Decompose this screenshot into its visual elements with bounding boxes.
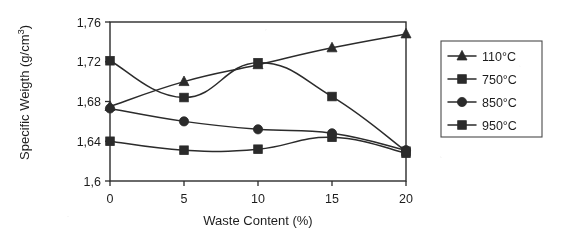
- x-axis-title-text: Waste Content (%): [203, 213, 312, 228]
- plot-frame: [110, 22, 406, 181]
- data-point-square-marker: [254, 145, 263, 154]
- data-point-circle-marker: [457, 97, 466, 106]
- x-tick-label: 20: [399, 192, 413, 206]
- chart-figure: Specific Weigth (g/cm3) 1,61,641,681,721…: [0, 0, 565, 246]
- line-chart: Specific Weigth (g/cm3) 1,61,641,681,721…: [0, 0, 565, 246]
- data-point-square-marker: [328, 92, 337, 101]
- series-950C: [106, 56, 411, 155]
- legend-item-label: 110°C: [482, 50, 516, 64]
- data-point-circle-marker: [327, 129, 336, 138]
- legend-item-label: 950°C: [482, 119, 517, 133]
- data-point-square-marker: [402, 147, 411, 156]
- y-tick-label: 1,68: [77, 95, 101, 109]
- chart-legend: 110°C750°C850°C950°C: [441, 41, 542, 137]
- series-line: [110, 34, 406, 107]
- series-750C: [106, 133, 411, 158]
- x-tick-label: 10: [251, 192, 265, 206]
- y-tick-label: 1,76: [77, 16, 101, 30]
- data-point-square-marker: [180, 93, 189, 102]
- x-tick-label: 0: [107, 192, 114, 206]
- legend-item-label: 850°C: [482, 96, 517, 110]
- y-tick-label: 1,6: [84, 175, 101, 189]
- data-point-triangle-marker: [401, 28, 411, 38]
- data-point-square-marker: [180, 146, 189, 155]
- series-line: [110, 61, 406, 151]
- svg-text:Specific Weigth (g/cm3): Specific Weigth (g/cm3): [15, 25, 32, 160]
- y-axis-title-tail: ): [17, 25, 32, 29]
- data-point-circle-marker: [105, 104, 114, 113]
- data-point-circle-marker: [253, 125, 262, 134]
- series-110C: [105, 28, 411, 110]
- plot-area: 1,61,641,681,721,7605101520: [77, 16, 413, 207]
- data-point-circle-marker: [179, 117, 188, 126]
- data-point-square-marker: [458, 121, 467, 130]
- y-axis-title-text: Specific Weigth (g/cm: [17, 35, 32, 160]
- y-tick-label: 1,72: [77, 55, 101, 69]
- data-point-square-marker: [106, 137, 115, 146]
- x-tick-label: 15: [325, 192, 339, 206]
- y-tick-label: 1,64: [77, 135, 101, 149]
- legend-item-label: 750°C: [482, 73, 517, 87]
- x-tick-label: 5: [181, 192, 188, 206]
- data-point-square-marker: [106, 56, 115, 65]
- data-point-square-marker: [254, 58, 263, 67]
- x-axis-title: Waste Content (%): [203, 213, 312, 228]
- y-axis-title: Specific Weigth (g/cm3): [15, 25, 32, 160]
- data-point-square-marker: [458, 75, 467, 84]
